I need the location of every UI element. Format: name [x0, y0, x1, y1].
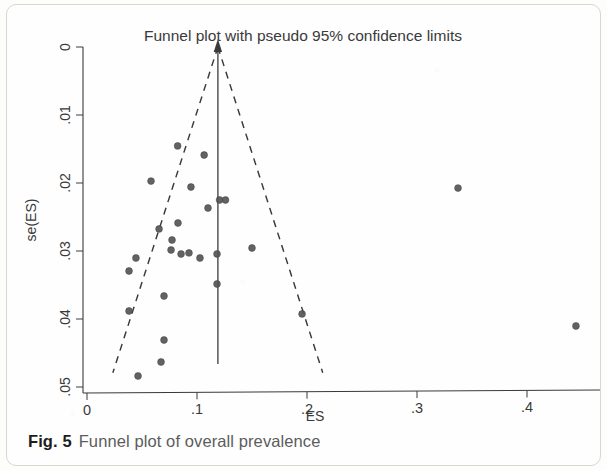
data-point	[174, 143, 181, 150]
data-point	[178, 251, 185, 258]
data-point	[188, 184, 195, 191]
data-point	[214, 281, 221, 288]
y-tick-label: .03	[57, 241, 73, 261]
data-point	[455, 185, 462, 192]
data-point	[161, 337, 168, 344]
data-point-series	[126, 143, 580, 380]
data-point	[156, 226, 163, 233]
y-axis-ticks: 0.01.02.03.04.05	[57, 43, 83, 397]
data-point	[126, 308, 133, 315]
figure-caption: Fig. 5Funnel plot of overall prevalence	[28, 432, 588, 462]
funnel-plot-figure: Funnel plot with pseudo 95% confidence l…	[0, 0, 607, 424]
data-point	[214, 251, 221, 258]
x-axis-line	[83, 390, 600, 393]
data-point	[299, 311, 306, 318]
data-point	[133, 255, 140, 262]
figure-caption-text: Funnel plot of overall prevalence	[79, 432, 321, 450]
data-point	[169, 237, 176, 244]
data-point	[148, 178, 155, 185]
y-tick-label: 0	[57, 43, 73, 51]
data-point	[205, 205, 212, 212]
data-point	[158, 359, 165, 366]
data-point	[126, 268, 133, 275]
y-tick-label: .05	[57, 377, 73, 397]
data-point	[168, 247, 175, 254]
x-tick-label: .4	[521, 399, 533, 415]
x-tick-label: .3	[411, 400, 423, 416]
data-point	[249, 245, 256, 252]
data-point	[201, 152, 208, 159]
data-point	[161, 293, 168, 300]
chart-title: Funnel plot with pseudo 95% confidence l…	[144, 27, 462, 44]
x-tick-label: .1	[191, 401, 203, 417]
y-axis-title: se(ES)	[23, 199, 39, 242]
x-tick-label: 0	[83, 402, 91, 418]
confidence-limit-line-left	[113, 47, 218, 373]
figure-number: Fig. 5	[28, 432, 72, 450]
y-tick-label: .01	[57, 105, 73, 125]
data-point	[175, 220, 182, 227]
data-point	[186, 250, 193, 257]
confidence-limit-line-right	[218, 47, 323, 373]
y-tick-label: .04	[57, 309, 73, 329]
data-point	[222, 197, 229, 204]
figure-page: Funnel plot with pseudo 95% confidence l…	[0, 0, 607, 470]
data-point	[573, 323, 580, 330]
funnel-plot-svg: Funnel plot with pseudo 95% confidence l…	[0, 0, 607, 424]
data-point	[135, 373, 142, 380]
y-tick-label: .02	[57, 173, 73, 193]
x-axis-title: ES	[306, 408, 325, 424]
data-point	[197, 255, 204, 262]
